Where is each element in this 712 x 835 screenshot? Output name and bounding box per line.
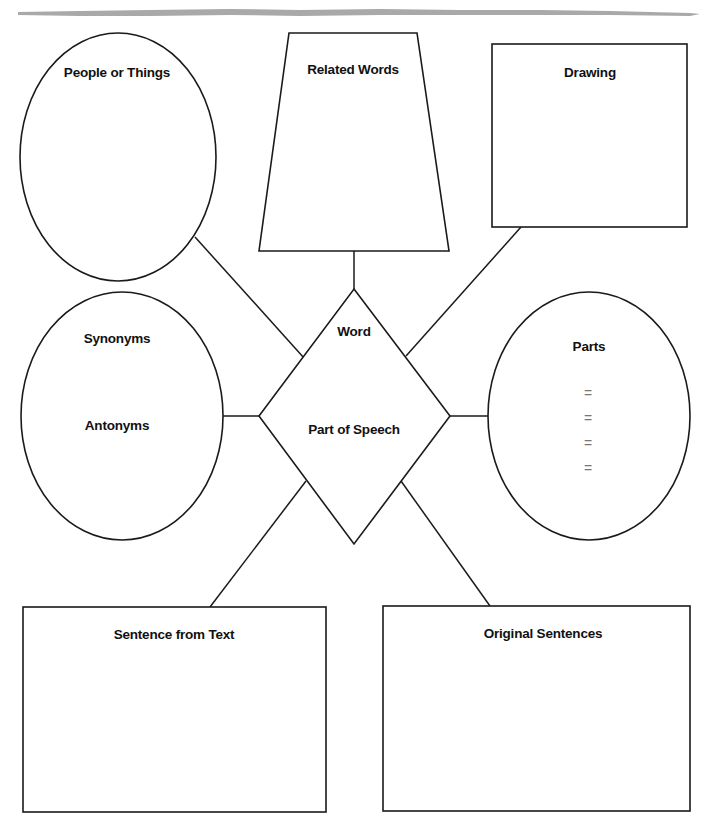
people-or-things-area[interactable] [40,90,196,260]
antonyms-label: Antonyms [85,418,149,433]
parts-equals-sign-2: = [584,411,592,425]
sentence-from-text-area[interactable] [30,650,320,805]
original-sentences-label: Original Sentences [484,626,603,641]
original-sentences-area[interactable] [390,650,682,805]
synonyms-label: Synonyms [84,331,151,346]
connector-sentence-to-center [210,481,306,607]
parts-equals-sign-4: = [584,461,592,475]
drawing-label: Drawing [564,65,616,80]
word-area[interactable] [320,345,390,405]
parts-equals-sign-3: = [584,436,592,450]
part-of-speech-area[interactable] [310,445,400,505]
connector-people-to-center [195,237,304,358]
parts-label: Parts [573,339,606,354]
sentence-from-text-label: Sentence from Text [114,627,235,642]
drawing-area[interactable] [500,90,680,220]
part-of-speech-label: Part of Speech [308,422,400,437]
word-label: Word [337,324,370,339]
antonyms-area[interactable] [40,440,205,520]
parts-equals-sign-1: = [584,386,592,400]
related-words-area[interactable] [290,85,420,240]
synonyms-area[interactable] [40,352,205,407]
torn-paper-edge [18,9,700,16]
connector-original-to-center [401,481,490,606]
people-or-things-label: People or Things [64,65,170,80]
related-words-label: Related Words [307,62,399,77]
